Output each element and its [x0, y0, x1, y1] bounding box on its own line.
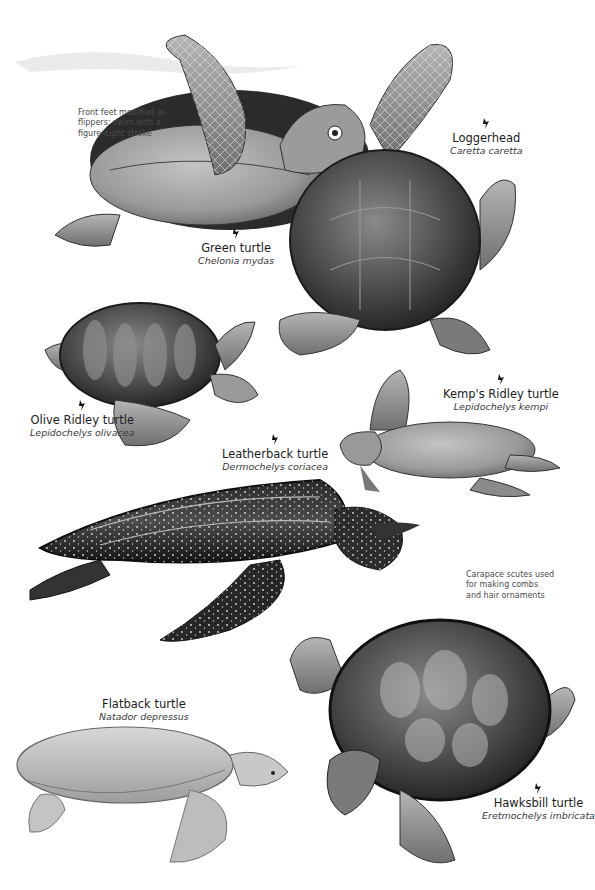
common-name: Hawksbill turtle	[482, 796, 595, 810]
label-olive-ridley: Olive Ridley turtle Lepidochelys olivace…	[30, 400, 134, 439]
label-loggerhead: Loggerhead Caretta caretta	[450, 118, 523, 157]
hawksbill-note: Carapace scutes used for making combs an…	[466, 570, 554, 601]
scientific-name: Lepidochelys kempi	[443, 401, 559, 413]
loggerhead-illustration	[279, 44, 515, 355]
scientific-name: Lepidochelys olivacea	[30, 427, 134, 439]
pointer-icon	[78, 400, 86, 411]
leatherback-illustration	[30, 480, 420, 641]
common-name: Green turtle	[198, 241, 274, 255]
scientific-name: Caretta caretta	[450, 145, 523, 157]
pointer-icon	[232, 228, 240, 239]
pointer-icon	[271, 434, 279, 445]
common-name: Flatback turtle	[99, 697, 189, 711]
label-leatherback: Leatherback turtle Dermochelys coriacea	[222, 434, 328, 473]
hawksbill-illustration	[290, 620, 575, 863]
flatback-illustration	[17, 727, 288, 862]
label-kemps-ridley: Kemp's Ridley turtle Lepidochelys kempi	[443, 374, 559, 413]
green-turtle-note: Front feet modified as flippers; swim wi…	[78, 108, 166, 139]
label-hawksbill: Hawksbill turtle Eretmochelys imbricata	[482, 783, 595, 822]
pointer-icon	[482, 118, 490, 129]
label-flatback: Flatback turtle Natador depressus	[99, 697, 189, 723]
scientific-name: Natador depressus	[99, 711, 189, 723]
scientific-name: Chelonia mydas	[198, 255, 274, 267]
water-surface	[15, 52, 300, 74]
scientific-name: Eretmochelys imbricata	[482, 810, 595, 822]
pointer-icon	[497, 374, 505, 385]
common-name: Olive Ridley turtle	[30, 413, 134, 427]
common-name: Leatherback turtle	[222, 447, 328, 461]
pointer-icon	[534, 783, 542, 794]
label-green-turtle: Green turtle Chelonia mydas	[198, 228, 274, 267]
scientific-name: Dermochelys coriacea	[222, 461, 328, 473]
common-name: Loggerhead	[450, 131, 523, 145]
common-name: Kemp's Ridley turtle	[443, 387, 559, 401]
